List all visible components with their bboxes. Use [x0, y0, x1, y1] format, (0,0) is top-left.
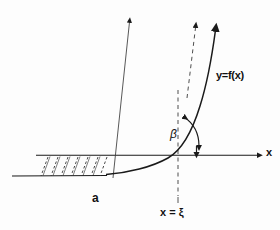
lower-boundary-line	[12, 176, 107, 177]
figure-canvas: y=f(x) x a x = ξ β	[0, 0, 280, 230]
angle-arc-beta	[184, 117, 199, 146]
figure-drawing	[0, 0, 280, 230]
function-curve	[106, 30, 216, 175]
boundary-normal-arrow	[113, 22, 130, 178]
x-axis-label: x	[266, 147, 272, 158]
angle-beta-label: β	[170, 128, 177, 140]
interval-start-label: a	[92, 192, 99, 204]
tangent-dashed-arrow	[187, 27, 196, 98]
curve-function-label: y=f(x)	[216, 70, 244, 81]
hatch-outline-group	[43, 157, 100, 176]
xi-vertical-line-label: x = ξ	[160, 207, 184, 218]
